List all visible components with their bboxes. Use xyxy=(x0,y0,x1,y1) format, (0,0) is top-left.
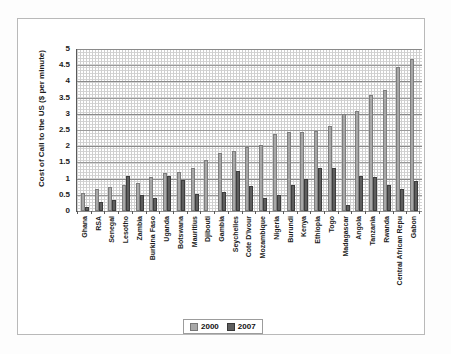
bar-2000 xyxy=(204,160,208,211)
x-axis-category-label: Mozambique xyxy=(259,216,266,258)
bar-group xyxy=(215,49,229,211)
x-axis-tick xyxy=(187,211,201,215)
x-axis-label-slot: RSA xyxy=(91,216,105,311)
bar-2007 xyxy=(249,186,253,211)
bar-2007 xyxy=(332,168,336,211)
x-axis-tick xyxy=(228,211,242,215)
bar-group xyxy=(243,49,257,211)
x-axis-label-slot: Gambia xyxy=(214,216,228,311)
x-axis-label-slot: Uganda xyxy=(159,216,173,311)
x-axis-label-slot: Rwanda xyxy=(379,216,393,311)
x-axis-category-label: Uganda xyxy=(163,216,170,242)
x-axis-tick xyxy=(91,211,105,215)
x-axis-label-slot: Botswana xyxy=(173,216,187,311)
x-axis-tick xyxy=(214,211,228,215)
y-axis-tick-label: 4.5 xyxy=(44,61,70,69)
bar-2007 xyxy=(112,200,116,211)
x-axis-tick xyxy=(393,211,407,215)
x-axis-category-label: Madagascar xyxy=(341,216,348,256)
legend-item-2000: 2000 xyxy=(190,322,219,331)
x-axis-category-label: Nigeria xyxy=(272,216,279,240)
legend-swatch-2007-icon xyxy=(227,323,235,331)
x-axis-category-label: Burundi xyxy=(286,216,293,243)
y-axis-tick-label: 3 xyxy=(44,110,70,118)
x-axis-category-label: Central African Repu xyxy=(396,216,403,285)
x-axis-category-label: Gabon xyxy=(410,216,417,238)
x-axis-tick xyxy=(310,211,324,215)
bar-group xyxy=(284,49,298,211)
x-axis-label-slot: Lesotho xyxy=(118,216,132,311)
x-axis-label-slot: Nigeria xyxy=(269,216,283,311)
x-axis-tick xyxy=(104,211,118,215)
bar-group xyxy=(380,49,394,211)
bar-2007 xyxy=(140,195,144,211)
bar-group xyxy=(339,49,353,211)
x-axis-category-label: Angola xyxy=(355,216,362,240)
bar-group xyxy=(92,49,106,211)
bar-series-container xyxy=(77,49,422,211)
bar-2007 xyxy=(387,185,391,211)
y-axis-tick-label: 1 xyxy=(44,175,70,183)
x-axis-tick xyxy=(77,211,91,215)
bar-group xyxy=(298,49,312,211)
bar-group xyxy=(188,49,202,211)
y-axis-tick-label: 4 xyxy=(44,77,70,85)
x-axis-tick xyxy=(132,211,146,215)
x-axis-label-slot: Burkina Faso xyxy=(146,216,160,311)
x-axis-category-label: Kenya xyxy=(300,216,307,237)
x-axis-label-slot: Gabon xyxy=(406,216,420,311)
legend-swatch-2000-icon xyxy=(190,323,198,331)
x-axis-category-label: Mauritius xyxy=(190,216,197,247)
y-axis-tick-labels: 54.543.532.521.510.50 xyxy=(44,45,70,211)
y-axis-tick-label: 1.5 xyxy=(44,158,70,166)
x-axis-tick xyxy=(255,211,269,215)
x-axis-label-slot: Tanzania xyxy=(365,216,379,311)
bar-2007 xyxy=(222,192,226,211)
x-axis-label-slot: Zambia xyxy=(132,216,146,311)
x-axis-label-slot: Burundi xyxy=(283,216,297,311)
plot-area xyxy=(76,49,422,212)
bar-2007 xyxy=(181,180,185,211)
bar-group xyxy=(256,49,270,211)
x-axis-category-label: Ghana xyxy=(80,216,87,238)
x-axis-category-label: Tanzania xyxy=(368,216,375,245)
x-axis-tick xyxy=(159,211,173,215)
bar-group xyxy=(160,49,174,211)
x-axis-tick xyxy=(324,211,338,215)
x-axis-tick xyxy=(200,211,214,215)
x-axis-tick xyxy=(297,211,311,215)
x-axis-category-label: Togo xyxy=(327,216,334,233)
bar-2007 xyxy=(153,198,157,211)
x-axis-category-label: Zambia xyxy=(135,216,142,241)
bar-group xyxy=(352,49,366,211)
legend-label-2000: 2000 xyxy=(201,322,219,331)
x-axis-label-slot: Cote D'Ivour xyxy=(242,216,256,311)
x-axis-category-label: Rwanda xyxy=(382,216,389,243)
x-axis-category-label: Gambia xyxy=(218,216,225,242)
bar-2007 xyxy=(99,202,103,211)
x-axis-label-slot: Seychelles xyxy=(228,216,242,311)
chart-legend: 2000 2007 xyxy=(183,319,263,334)
x-axis-tick xyxy=(173,211,187,215)
bar-group xyxy=(201,49,215,211)
y-axis-tick-label: 0.5 xyxy=(44,191,70,199)
bar-group xyxy=(105,49,119,211)
x-axis-tick xyxy=(269,211,283,215)
bar-2007 xyxy=(126,176,130,211)
x-axis-category-label: Cote D'Ivour xyxy=(245,216,252,257)
x-axis-label-slot: Madagascar xyxy=(338,216,352,311)
bar-group xyxy=(229,49,243,211)
bar-2007 xyxy=(277,195,281,211)
x-axis-tick xyxy=(351,211,365,215)
x-axis-tick xyxy=(118,211,132,215)
bar-group xyxy=(394,49,408,211)
x-axis-label-slot: Ghana xyxy=(77,216,91,311)
bar-2000 xyxy=(342,114,346,211)
x-axis-category-label: Djibouti xyxy=(204,216,211,242)
bar-2007 xyxy=(359,176,363,211)
x-axis-label-slot: Djibouti xyxy=(200,216,214,311)
bar-2007 xyxy=(414,181,418,211)
x-axis-label-slot: Mozambique xyxy=(255,216,269,311)
bar-2007 xyxy=(236,171,240,211)
y-axis-tick-label: 3.5 xyxy=(44,94,70,102)
